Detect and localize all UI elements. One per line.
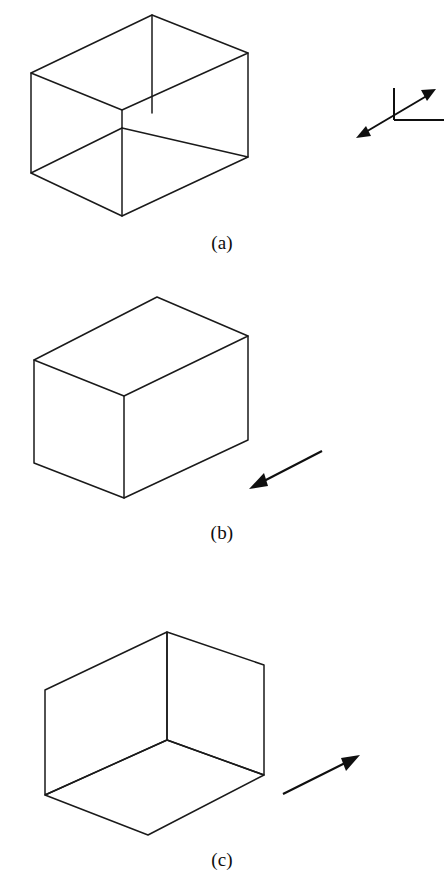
solid-cuboid-b	[34, 297, 248, 498]
panel-b: (b)	[0, 276, 444, 566]
panel-c: (c)	[0, 600, 444, 884]
axis-arrowhead-upper-right-icon	[421, 89, 436, 101]
direction-arrow-up-right	[283, 755, 360, 794]
arrow-c-head-icon	[341, 755, 360, 771]
axis-indicator	[356, 88, 444, 138]
axis-arrowhead-lower-left-icon	[356, 126, 371, 138]
box-a-top-face	[31, 15, 248, 110]
box-a-bottom-face	[31, 128, 248, 216]
box-c-floor	[45, 740, 264, 835]
arrow-b-shaft	[262, 451, 322, 482]
wireframe-cuboid-a	[31, 15, 248, 216]
box-c-right-wall	[167, 632, 264, 775]
arrow-c-shaft	[283, 762, 347, 794]
axis-diagonal-stroke	[364, 94, 430, 133]
box-c-left-wall	[45, 632, 167, 795]
panel-b-caption: (b)	[0, 523, 444, 542]
figure-sheet: (a) (b)	[0, 0, 444, 884]
panel-c-caption: (c)	[0, 850, 444, 869]
panel-a-drawing	[0, 0, 444, 270]
panel-a: (a)	[0, 0, 444, 270]
arrow-b-head-icon	[249, 473, 268, 489]
direction-arrow-down-left	[249, 451, 322, 489]
panel-a-caption: (a)	[0, 233, 444, 252]
concave-corner-box-c	[45, 632, 264, 835]
panel-c-drawing	[0, 600, 444, 884]
